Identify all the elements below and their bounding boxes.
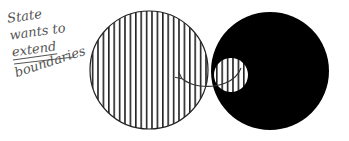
small-hatched-circle <box>214 58 248 92</box>
underline-stroke <box>14 57 74 64</box>
state-boundaries-diagram <box>0 0 349 141</box>
large-hatched-circle <box>90 11 208 129</box>
